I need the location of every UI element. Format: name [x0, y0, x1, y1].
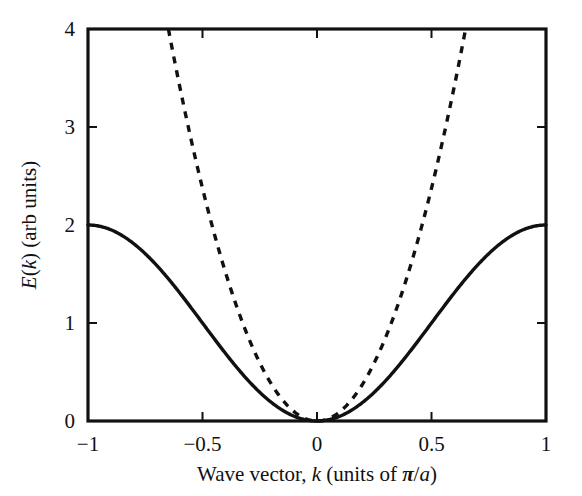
x-axis-title-lead: Wave vector,	[197, 462, 312, 486]
x-tick-label: 0	[312, 432, 323, 456]
y-axis-title: E(k) (arb units)	[17, 161, 41, 290]
x-axis-title-close: )	[430, 462, 437, 486]
x-axis-title-pi: π	[402, 462, 414, 486]
x-axis-title-mid: (units of	[321, 462, 402, 486]
y-axis-title-units: (arb units)	[17, 161, 41, 253]
figure-container: −1−0.500.51 01234 Wave vector, k (units …	[0, 0, 582, 496]
y-tick-labels-group: 01234	[65, 17, 76, 433]
x-axis-title: Wave vector, k (units of π/a)	[197, 462, 437, 486]
y-tick-label: 0	[65, 409, 76, 433]
y-axis-title-E: E	[17, 276, 41, 290]
y-axis-title-open: (	[17, 269, 41, 276]
x-axis-title-a: a	[419, 462, 430, 486]
x-tick-label: 1	[541, 432, 552, 456]
x-tick-label: −0.5	[183, 432, 221, 456]
y-tick-label: 2	[65, 213, 76, 237]
x-tick-label: −1	[77, 432, 99, 456]
x-tick-label: 0.5	[418, 432, 444, 456]
plot-area-background	[88, 29, 546, 421]
x-tick-labels-group: −1−0.500.51	[77, 432, 551, 456]
y-axis-title-close: )	[17, 253, 41, 260]
y-tick-label: 4	[65, 17, 76, 41]
band-structure-plot: −1−0.500.51 01234 Wave vector, k (units …	[0, 0, 582, 496]
y-tick-label: 1	[65, 311, 76, 335]
y-tick-label: 3	[65, 115, 76, 139]
